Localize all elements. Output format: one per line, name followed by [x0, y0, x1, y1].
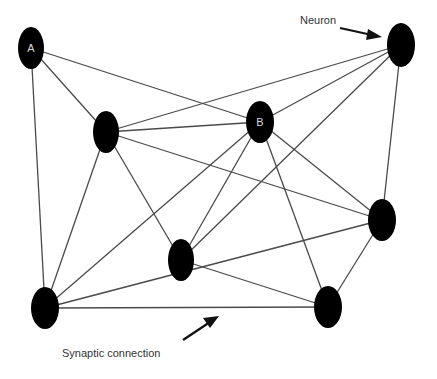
neural-network-diagram: AB Neuron Synaptic connection: [0, 0, 437, 379]
neuron-node-n8: [314, 286, 342, 328]
synapse-edge-neuron-n5: [382, 45, 401, 220]
neuron-node-n2: [93, 111, 119, 153]
neuron-node-n7: [31, 287, 59, 329]
synapse-arrow-icon: [183, 322, 210, 340]
synapse-edge-n2-n6: [106, 132, 181, 260]
neuron-body: [314, 286, 342, 328]
neuron-body: [387, 23, 415, 67]
neuron-node-n5: [368, 199, 396, 241]
synapse-edge-a-n7: [31, 48, 45, 308]
synapse-edge-a-b: [31, 48, 260, 122]
neuron-body: [31, 287, 59, 329]
synapse-label: Synaptic connection: [62, 347, 160, 359]
neuron-node-a: A: [18, 27, 44, 69]
synapse-edge-b-n6: [181, 122, 260, 260]
neuron-node-n6: [168, 239, 194, 281]
neuron-node-neuron: [387, 23, 415, 67]
neuron-label: A: [27, 42, 35, 54]
synapse-edge-b-neuron: [260, 45, 401, 122]
synaptic-connections: [31, 45, 401, 308]
neuron-body: [368, 199, 396, 241]
synapse-edge-n7-n8: [45, 307, 328, 308]
synapse-edge-n2-b: [106, 122, 260, 132]
neuron-body: [168, 239, 194, 281]
neurons: AB: [18, 23, 415, 329]
neuron-node-b: B: [246, 101, 274, 143]
neuron-label: Neuron: [300, 14, 336, 26]
synapse-edge-n6-n8: [181, 260, 328, 307]
neuron-label: B: [256, 116, 263, 128]
neuron-body: [93, 111, 119, 153]
synapse-edge-n2-n5: [106, 132, 382, 220]
neuron-annotation: Neuron: [300, 14, 382, 40]
neuron-arrowhead-icon: [366, 29, 382, 40]
synapse-annotation: Synaptic connection: [62, 316, 219, 359]
